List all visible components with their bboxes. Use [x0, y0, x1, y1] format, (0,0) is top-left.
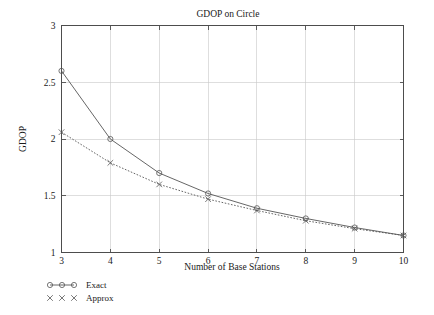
- chart-figure: GDOP on Circle 11.522.53 345678910 GDOP …: [0, 0, 434, 315]
- y-axis-label: GDOP: [18, 126, 28, 152]
- y-tick-label: 3: [51, 21, 56, 31]
- x-tick-label: 5: [157, 256, 162, 266]
- x-tick-label: 9: [352, 256, 357, 266]
- x-tick-label: 10: [399, 256, 409, 266]
- x-axis-label: Number of Base Stations: [184, 262, 280, 272]
- x-tick-label: 4: [108, 256, 113, 266]
- x-tick-label: 8: [303, 256, 308, 266]
- x-tick-label: 3: [59, 256, 64, 266]
- y-tick-label: 1: [51, 248, 56, 258]
- legend-label: Exact: [86, 280, 107, 290]
- y-tick-label: 2: [51, 134, 56, 144]
- legend-label: Approx: [86, 293, 114, 303]
- chart-title: GDOP on Circle: [197, 9, 260, 19]
- gdop-line-chart: GDOP on Circle 11.522.53 345678910 GDOP …: [0, 0, 434, 315]
- y-tick-label: 2.5: [44, 78, 56, 88]
- y-tick-label: 1.5: [44, 191, 56, 201]
